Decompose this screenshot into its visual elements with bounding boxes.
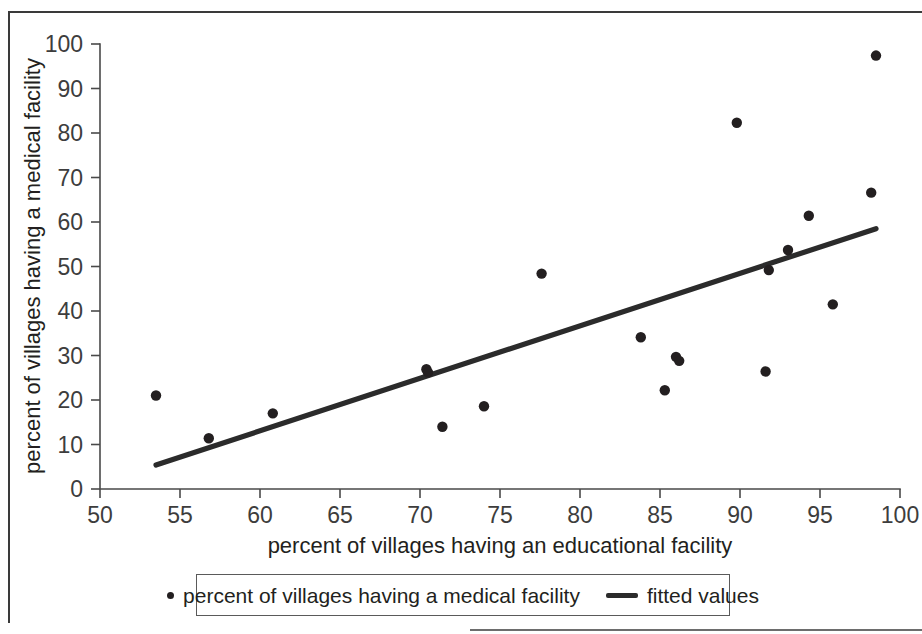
scatter-point bbox=[660, 385, 670, 395]
x-tick-label: 75 bbox=[487, 502, 513, 528]
y-tick-label: 100 bbox=[45, 31, 83, 57]
scatter-point bbox=[828, 299, 838, 309]
scatter-point bbox=[804, 211, 814, 221]
legend-label-fitted-values: fitted values bbox=[647, 585, 759, 606]
y-tick-label: 30 bbox=[57, 343, 83, 369]
x-tick-label: 90 bbox=[727, 502, 753, 528]
y-tick-label: 60 bbox=[57, 209, 83, 235]
x-tick-label: 55 bbox=[167, 502, 193, 528]
legend-entry-fitted-values: fitted values bbox=[606, 585, 759, 606]
x-tick-label: 100 bbox=[881, 502, 919, 528]
x-tick-label: 95 bbox=[807, 502, 833, 528]
x-tick-label: 85 bbox=[647, 502, 673, 528]
x-tick-label: 70 bbox=[407, 502, 433, 528]
x-tick-label: 60 bbox=[247, 502, 273, 528]
scatter-point bbox=[423, 367, 433, 377]
y-tick-label: 90 bbox=[57, 76, 83, 102]
x-axis-tick-labels: 50556065707580859095100 bbox=[87, 502, 919, 528]
plot-canvas: 50556065707580859095100 0102030405060708… bbox=[0, 0, 922, 634]
legend-dot-marker-icon bbox=[167, 592, 174, 599]
x-tick-label: 65 bbox=[327, 502, 353, 528]
scatter-point bbox=[636, 332, 646, 342]
y-tick-label: 70 bbox=[57, 165, 83, 191]
legend-entry-medical-facility: percent of villages having a medical fac… bbox=[167, 585, 580, 606]
y-tick-label: 10 bbox=[57, 432, 83, 458]
scatter-point bbox=[783, 245, 793, 255]
y-tick-label: 80 bbox=[57, 120, 83, 146]
y-tick-label: 20 bbox=[57, 387, 83, 413]
scatter-point bbox=[536, 268, 546, 278]
y-axis-title: percent of villages having a medical fac… bbox=[20, 58, 45, 474]
scatter-plot-figure: 50556065707580859095100 0102030405060708… bbox=[0, 0, 922, 634]
y-tick-label: 50 bbox=[57, 254, 83, 280]
axes-group bbox=[100, 44, 900, 489]
scatter-point bbox=[268, 408, 278, 418]
fitted-values-line-path bbox=[156, 229, 876, 465]
scatter-point bbox=[866, 187, 876, 197]
legend-label-medical-facility: percent of villages having a medical fac… bbox=[183, 585, 580, 606]
chart-legend: percent of villages having a medical fac… bbox=[196, 574, 730, 616]
scatter-points-group bbox=[151, 50, 881, 443]
scatter-point bbox=[760, 366, 770, 376]
x-axis-title: percent of villages having an educationa… bbox=[268, 533, 733, 558]
y-tick-label: 40 bbox=[57, 298, 83, 324]
scatter-point bbox=[732, 118, 742, 128]
x-tick-label: 50 bbox=[87, 502, 113, 528]
legend-line-marker-icon bbox=[606, 593, 638, 598]
y-tick-label: 0 bbox=[70, 476, 83, 502]
scatter-point bbox=[871, 50, 881, 60]
scatter-point bbox=[764, 265, 774, 275]
scatter-point bbox=[151, 390, 161, 400]
axis-ticks-group bbox=[91, 44, 900, 498]
scatter-point bbox=[204, 433, 214, 443]
x-tick-label: 80 bbox=[567, 502, 593, 528]
scatter-point bbox=[479, 401, 489, 411]
scatter-point bbox=[437, 422, 447, 432]
scatter-point bbox=[674, 356, 684, 366]
fitted-values-line bbox=[156, 229, 876, 465]
y-axis-tick-labels: 0102030405060708090100 bbox=[45, 31, 83, 502]
